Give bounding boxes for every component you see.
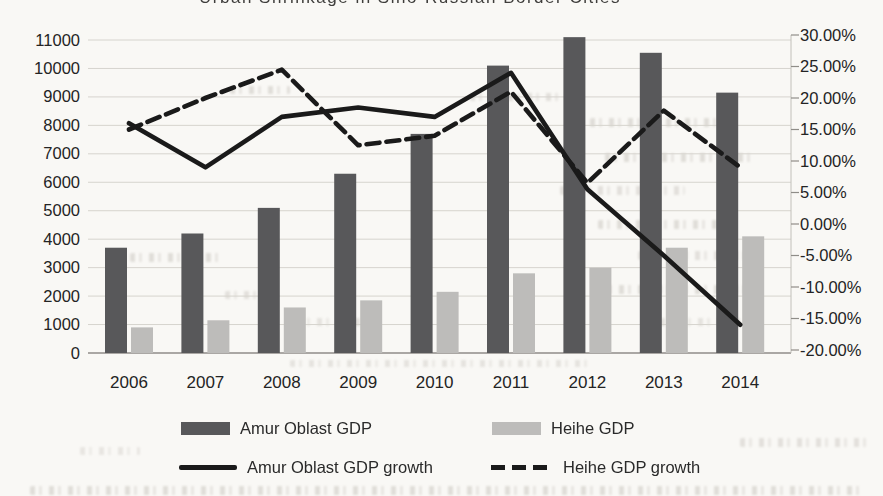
heihe-gdp-bar bbox=[131, 327, 153, 353]
amur-gdp-bar bbox=[181, 233, 203, 353]
right-axis-tick-label: 20.00% bbox=[800, 89, 856, 107]
left-axis-tick-label: 0 bbox=[71, 344, 80, 362]
amur-gdp-bar bbox=[411, 134, 433, 353]
legend-label-heihe-gdp: Heihe GDP bbox=[551, 419, 634, 438]
amur-gdp-bar bbox=[563, 37, 585, 353]
heihe-gdp-bar bbox=[666, 248, 688, 353]
right-axis-tick-label: 5.00% bbox=[800, 183, 847, 201]
left-axis-tick-label: 7000 bbox=[43, 144, 80, 162]
x-axis-category-label: 2008 bbox=[263, 373, 301, 392]
right-axis-tick-label: 30.00% bbox=[800, 26, 856, 44]
left-axis-tick-label: 8000 bbox=[43, 116, 80, 134]
heihe-gdp-bar bbox=[513, 273, 535, 353]
left-axis-tick-label: 9000 bbox=[43, 87, 80, 105]
heihe-growth-line-swatch bbox=[491, 465, 553, 470]
amur-growth-line-swatch bbox=[179, 465, 237, 470]
amur-gdp-bar bbox=[640, 53, 662, 353]
legend-item-amur-gdp: Amur Oblast GDP bbox=[181, 420, 372, 436]
legend-label-amur-growth: Amur Oblast GDP growth bbox=[247, 458, 433, 477]
right-axis-tick-label: -20.00% bbox=[800, 341, 862, 359]
x-axis-category-label: 2011 bbox=[493, 373, 530, 392]
scanned-chart-page: Urban Shrinkage in Sino-Russian Border C… bbox=[0, 0, 883, 496]
legend-label-heihe-growth: Heihe GDP growth bbox=[563, 458, 700, 477]
right-axis-tick-label: 10.00% bbox=[800, 152, 856, 170]
heihe-gdp-bar bbox=[589, 268, 611, 353]
x-axis-category-label: 2014 bbox=[721, 373, 759, 392]
amur-gdp-bar-swatch bbox=[181, 422, 230, 435]
legend-item-amur-growth: Amur Oblast GDP growth bbox=[179, 459, 433, 475]
x-axis-category-label: 2010 bbox=[416, 373, 454, 392]
x-axis-category-label: 2012 bbox=[568, 373, 606, 392]
x-axis-category-label: 2009 bbox=[339, 373, 377, 392]
bleed-through-text bbox=[30, 486, 860, 495]
heihe-gdp-bar bbox=[207, 320, 229, 353]
legend-item-heihe-gdp: Heihe GDP bbox=[492, 420, 634, 436]
x-axis-category-label: 2013 bbox=[645, 373, 683, 392]
legend-label-amur-gdp: Amur Oblast GDP bbox=[240, 419, 372, 438]
left-axis-tick-label: 10000 bbox=[34, 59, 80, 77]
amur-gdp-bar bbox=[487, 66, 509, 353]
amur-gdp-bar bbox=[258, 208, 280, 353]
x-axis-category-label: 2006 bbox=[110, 373, 148, 392]
heihe-gdp-bar bbox=[437, 292, 459, 353]
bleed-through-text bbox=[80, 447, 140, 455]
bleed-through-text bbox=[740, 438, 870, 447]
right-axis-tick-label: 25.00% bbox=[800, 57, 856, 75]
heihe-gdp-bar-swatch bbox=[492, 422, 541, 435]
heihe-gdp-bar bbox=[360, 300, 382, 353]
combo-chart-plot: 1100010000900080007000600050004000300020… bbox=[0, 0, 883, 410]
legend-item-heihe-growth: Heihe GDP growth bbox=[491, 459, 700, 475]
right-axis-tick-label: 0.00% bbox=[800, 215, 847, 233]
right-axis-tick-label: -15.00% bbox=[800, 309, 862, 327]
x-axis-category-label: 2007 bbox=[186, 373, 224, 392]
left-axis-tick-label: 11000 bbox=[35, 31, 80, 49]
left-axis-tick-label: 6000 bbox=[43, 173, 80, 191]
right-axis-tick-label: -5.00% bbox=[800, 246, 853, 264]
amur-gdp-bar bbox=[105, 248, 127, 353]
heihe-gdp-bar bbox=[742, 236, 764, 353]
left-axis-tick-label: 4000 bbox=[43, 230, 80, 248]
heihe-gdp-bar bbox=[284, 307, 306, 353]
right-axis-tick-label: -10.00% bbox=[800, 278, 862, 296]
left-axis-tick-label: 5000 bbox=[43, 201, 80, 219]
left-axis-tick-label: 2000 bbox=[43, 287, 80, 305]
left-axis-tick-label: 1000 bbox=[43, 315, 80, 333]
left-axis-tick-label: 3000 bbox=[43, 258, 80, 276]
amur-gdp-bar bbox=[334, 174, 356, 353]
right-axis-tick-label: 15.00% bbox=[800, 120, 856, 138]
